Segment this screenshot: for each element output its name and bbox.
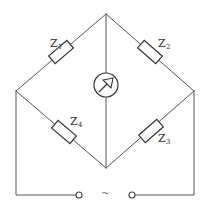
terminal-left	[76, 192, 82, 198]
label-z4: Z	[70, 115, 78, 128]
terminal-right	[129, 192, 135, 198]
label-z4-subscript: 4	[78, 121, 83, 129]
label-z3-subscript: 3	[166, 138, 170, 146]
label-z3: Z	[158, 132, 166, 145]
label-z2-subscript: 2	[166, 43, 170, 51]
label-z1: Z	[50, 37, 58, 50]
ac-source-symbol: ~	[101, 188, 109, 199]
label-z2: Z	[158, 37, 166, 50]
wire-supply-left	[16, 91, 76, 195]
label-z1-subscript: 1	[58, 43, 62, 51]
detector-meter-icon	[94, 73, 118, 97]
bridge-circuit: Z 1 Z 2 Z 4 Z 3 ~	[0, 0, 207, 214]
